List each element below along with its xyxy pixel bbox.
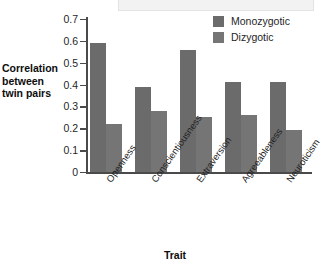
y-axis-tick-label: 0.6 [46,36,78,47]
legend-swatch-icon [213,32,224,43]
y-axis-tick-label: 0.2 [46,123,78,134]
y-axis-tick-label: 0.7 [46,14,78,25]
legend-item: Dizygotic [213,32,290,43]
y-axis-tick-label: 0.3 [46,101,78,112]
bar-monozygotic-extraversion [180,50,196,172]
y-axis-tick-mark [80,85,86,86]
legend-label: Dizygotic [231,32,274,43]
y-axis-tick-label: 0 [46,167,78,178]
y-axis-tick-label-text: 0.3 [46,101,78,112]
y-axis-tick-label-text: 0.2 [46,123,78,134]
bar-group [135,19,167,172]
y-axis-title-line-3: twin pairs [2,87,76,100]
bar-monozygotic-agreeableness [225,82,241,172]
y-axis-tick-mark [80,106,86,107]
legend-swatch-icon [213,16,224,27]
legend-label: Monozygotic [231,16,290,27]
legend-item: Monozygotic [213,16,290,27]
y-axis-tick-label-text: 0.6 [46,36,78,47]
y-axis-tick-mark [80,19,86,20]
y-axis-tick-label: 0.1 [46,145,78,156]
y-axis-tick-mark [80,128,86,129]
y-axis-tick-label-text: 0.7 [46,14,78,25]
y-axis-tick-label-text: 0 [46,167,78,178]
bar-group [180,19,212,172]
y-axis-tick-mark [80,63,86,64]
y-axis-title-line-2: between [2,75,76,88]
x-axis-title: Trait [0,249,320,261]
y-axis-tick-mark [80,41,86,42]
chart-legend: MonozygoticDizygotic [213,16,290,48]
y-axis-title-line-1: Correlation [2,62,76,75]
y-axis-title: Correlation between twin pairs [2,62,76,100]
y-axis-tick-label-text: 0.1 [46,145,78,156]
y-axis-tick-mark [80,150,86,151]
bar-group [90,19,122,172]
bar-monozygotic-openness [90,43,106,172]
bar-monozygotic-conscientiousness [135,87,151,172]
y-axis-tick-mark [80,172,86,173]
